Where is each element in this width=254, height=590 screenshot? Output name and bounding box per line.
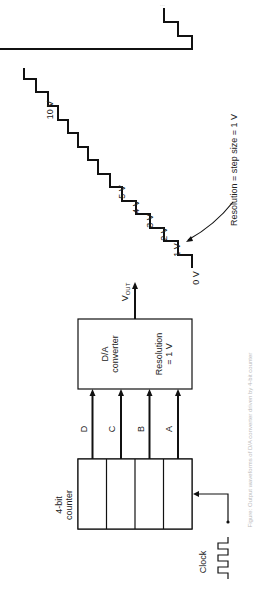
dac-diagram: 4-bit counter Clock D C B A D/A converte… <box>0 0 254 590</box>
annotation-arrow <box>188 202 233 240</box>
step-label-4v: 4 V <box>131 200 141 214</box>
bit-label-b: B <box>136 426 146 432</box>
step-label-10v: 10 V <box>45 101 55 120</box>
resolution-annotation: Resolution = step size = 1 V <box>229 114 239 226</box>
bit-label-a: A <box>164 426 174 432</box>
svg-text:...: ... <box>160 1 165 7</box>
bit-label-d: D <box>79 425 89 432</box>
dac-label-4: = 1 V <box>164 343 174 364</box>
vout-label: VOUT <box>120 282 131 301</box>
dac-label-2: converter <box>110 335 120 373</box>
step-label-3v: 3 V <box>145 214 155 228</box>
clock-label: Clock <box>198 550 208 573</box>
counter-label-2: counter <box>64 490 74 520</box>
step-label-0v: 0 V <box>191 271 201 285</box>
bit-label-c: C <box>107 425 117 432</box>
dac-label-3: Resolution <box>154 333 164 376</box>
counter-label-1: 4-bit <box>54 496 64 514</box>
clock-waveform-icon <box>218 537 228 579</box>
step-label-2v: 2 V <box>159 227 169 241</box>
dac-label-1: D/A <box>100 346 110 361</box>
step-label-5v: 5 V <box>117 185 127 199</box>
figure-caption: Figure: Output waveforms of D/A converte… <box>247 353 253 528</box>
step-label-1v: 1 V <box>172 243 182 257</box>
staircase-reset <box>0 8 192 49</box>
dac-block <box>78 319 192 389</box>
bit-lines <box>90 389 182 459</box>
counter-dividers <box>78 459 192 529</box>
